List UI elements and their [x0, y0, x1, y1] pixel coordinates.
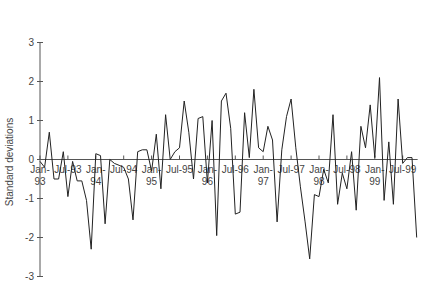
x-tick-label: Jul-96	[222, 164, 250, 175]
x-axis: Jan-93Jul-93Jan-94Jul-94Jan-95Jul-95Jan-…	[30, 156, 417, 187]
x-tick-label: Jan-	[253, 164, 272, 175]
line-chart: 3210-1-2-3 Jan-93Jul-93Jan-94Jul-94Jan-9…	[0, 0, 439, 289]
x-tick-label: Jan-	[309, 164, 328, 175]
x-tick-label-year: 93	[34, 176, 46, 187]
x-tick-label: Jul-97	[277, 164, 305, 175]
x-tick-label: Jan-	[86, 164, 105, 175]
x-tick-label-year: 97	[258, 176, 270, 187]
x-tick-label: Jan-	[365, 164, 384, 175]
y-axis-title: Standard deviations	[4, 118, 15, 206]
x-tick-label: Jul-93	[54, 164, 82, 175]
x-tick-label-year: 99	[369, 176, 381, 187]
y-tick-label: -1	[25, 193, 34, 204]
y-tick-label: -2	[25, 232, 34, 243]
x-tick-label: Jul-95	[166, 164, 194, 175]
y-tick-label: 1	[28, 115, 34, 126]
x-tick-label: Jul-98	[333, 164, 361, 175]
x-tick-label-year: 94	[90, 176, 102, 187]
x-tick-label: Jan-	[30, 164, 49, 175]
y-tick-label: 2	[28, 76, 34, 87]
x-tick-label-year: 95	[146, 176, 158, 187]
y-tick-label: 3	[28, 37, 34, 48]
y-tick-label: -3	[25, 271, 34, 282]
x-tick-label-year: 98	[313, 176, 325, 187]
